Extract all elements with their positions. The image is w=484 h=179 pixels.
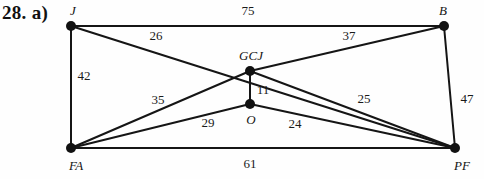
graph-node — [450, 143, 460, 153]
edge-weight-label: 26 — [150, 28, 163, 44]
edge-weight-label: 37 — [343, 28, 356, 44]
edge-weight-label: 25 — [358, 91, 371, 107]
graph-edge — [444, 26, 455, 148]
node-label-b: B — [439, 3, 447, 19]
edge-weight-label: 35 — [152, 92, 165, 108]
graph-node — [66, 21, 76, 31]
node-label-j: J — [70, 3, 76, 19]
graph-node — [245, 66, 255, 76]
edge-weight-label: 29 — [202, 115, 215, 131]
node-label-pf: PF — [454, 158, 470, 174]
edge-weight-label: 75 — [242, 3, 255, 19]
graph-node — [245, 99, 255, 109]
node-label-gcj: GCJ — [239, 48, 263, 64]
edge-weight-label: 42 — [78, 68, 91, 84]
graph-drawing — [0, 0, 484, 179]
edge-weight-label: 24 — [289, 116, 302, 132]
edge-weight-label: 47 — [461, 91, 474, 107]
edge-weight-label: 61 — [244, 156, 257, 172]
node-label-fa: FA — [69, 158, 83, 174]
graph-edge — [71, 71, 250, 148]
graph-node — [66, 143, 76, 153]
problem-number-label: 28. a) — [2, 2, 48, 24]
graph-edge — [250, 71, 455, 148]
graph-edge — [250, 104, 455, 148]
node-label-o: O — [246, 112, 255, 128]
graph-node — [439, 21, 449, 31]
graph-edge — [71, 104, 250, 148]
figure-canvas: 28. a) 7526423711352924254761JBGCJOFAPF — [0, 0, 484, 179]
edge-weight-label: 11 — [257, 82, 270, 98]
